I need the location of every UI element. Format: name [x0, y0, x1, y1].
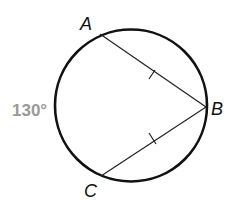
label-a: A	[79, 14, 92, 34]
circle	[55, 30, 207, 182]
label-b: B	[211, 99, 223, 119]
chord-ab	[100, 34, 206, 107]
circle-diagram: A B C 130°	[0, 0, 237, 204]
label-c: C	[84, 181, 98, 201]
tick-mark-ab	[149, 70, 155, 79]
arc-measure-label: 130°	[12, 101, 47, 120]
chord-cb	[101, 107, 206, 176]
